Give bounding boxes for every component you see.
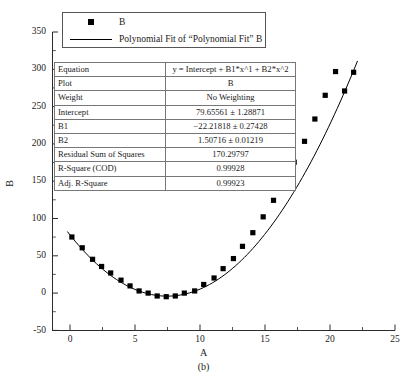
param-value-cell: B — [166, 77, 296, 91]
legend-entry-fit: Polynomial Fit of “Polynomial Fit” B — [63, 30, 265, 48]
param-name-cell: Adj. R-Square — [55, 176, 166, 190]
y-tick-label: 50 — [18, 250, 46, 260]
data-point — [333, 69, 338, 74]
param-value-cell: −22.21818 ± 0.27428 — [166, 119, 296, 133]
data-point — [261, 214, 266, 219]
data-point — [240, 244, 245, 249]
param-value-cell: 170.29797 — [166, 148, 296, 162]
data-point — [127, 283, 132, 288]
table-row: Intercept79.65561 ± 1.28871 — [55, 105, 296, 119]
x-tick-label: 15 — [251, 334, 279, 344]
table-row: WeightNo Weighting — [55, 91, 296, 105]
data-point — [231, 256, 236, 261]
param-name-cell: R-Square (COD) — [55, 162, 166, 176]
param-value-cell: No Weighting — [166, 91, 296, 105]
legend-entry-scatter: B — [63, 13, 265, 31]
line-sample-icon — [63, 39, 119, 40]
table-row: Residual Sum of Squares170.29797 — [55, 148, 296, 162]
param-name-cell: B2 — [55, 134, 166, 148]
data-point — [323, 93, 328, 98]
figure-panel: 350 300 250 200 150 100 50 0 -50 0 5 10 … — [0, 0, 407, 379]
fit-parameter-table: Equationy = Intercept + B1*x^1 + B2*x^2P… — [54, 62, 296, 191]
legend-box: B Polynomial Fit of “Polynomial Fit” B — [62, 12, 266, 48]
x-tick-label: 0 — [56, 334, 84, 344]
data-point — [108, 270, 113, 275]
data-point — [136, 288, 141, 293]
x-tick-label: 5 — [121, 334, 149, 344]
x-axis-title: A — [0, 347, 407, 358]
param-name-cell: Intercept — [55, 105, 166, 119]
y-tick-label: 200 — [18, 138, 46, 148]
param-value-cell: 0.99923 — [166, 176, 296, 190]
data-point — [201, 282, 206, 287]
table-row: PlotB — [55, 77, 296, 91]
data-point — [250, 230, 255, 235]
data-point — [351, 70, 356, 75]
param-value-cell: 0.99928 — [166, 162, 296, 176]
data-point — [221, 266, 226, 271]
x-axis-minor-ticks — [103, 327, 363, 331]
data-point — [164, 294, 169, 299]
param-name-cell: Residual Sum of Squares — [55, 148, 166, 162]
data-point — [312, 116, 317, 121]
data-point — [80, 245, 85, 250]
table-row: B1−22.21818 ± 0.27428 — [55, 119, 296, 133]
x-tick-label: 10 — [186, 334, 214, 344]
param-name-cell: Plot — [55, 77, 166, 91]
table-row: Equationy = Intercept + B1*x^1 + B2*x^2 — [55, 63, 296, 77]
data-point — [211, 275, 216, 280]
legend-entry-label: B — [119, 17, 125, 27]
y-axis-title: B — [4, 171, 15, 197]
param-value-cell: 79.65561 ± 1.28871 — [166, 105, 296, 119]
x-tick-label: 25 — [381, 334, 407, 344]
param-value-cell: 1.50716 ± 0.01219 — [166, 134, 296, 148]
param-value-cell: y = Intercept + B1*x^1 + B2*x^2 — [166, 63, 296, 77]
y-tick-label: 0 — [18, 287, 46, 297]
legend-entry-label: Polynomial Fit of “Polynomial Fit” B — [119, 34, 262, 44]
param-name-cell: Weight — [55, 91, 166, 105]
data-point — [302, 139, 307, 144]
data-point — [192, 288, 197, 293]
data-point — [155, 293, 160, 298]
data-point — [146, 291, 151, 296]
square-marker-icon — [63, 19, 119, 25]
data-point — [182, 291, 187, 296]
y-tick-label: 250 — [18, 101, 46, 111]
data-point — [69, 234, 74, 239]
table-row: Adj. R-Square0.99923 — [55, 176, 296, 190]
data-point — [90, 257, 95, 262]
data-point — [99, 264, 104, 269]
y-tick-label: 350 — [18, 26, 46, 36]
data-point — [342, 88, 347, 93]
param-name-cell: B1 — [55, 119, 166, 133]
param-name-cell: Equation — [55, 63, 166, 77]
data-point — [271, 198, 276, 203]
x-tick-label: 20 — [316, 334, 344, 344]
data-point — [118, 278, 123, 283]
y-tick-label: 150 — [18, 175, 46, 185]
y-tick-label: 300 — [18, 63, 46, 73]
data-point — [173, 293, 178, 298]
table-row: R-Square (COD)0.99928 — [55, 162, 296, 176]
y-tick-label: 100 — [18, 213, 46, 223]
figure-caption: (b) — [0, 361, 407, 372]
y-tick-label: -50 — [18, 325, 46, 335]
table-row: B21.50716 ± 0.01219 — [55, 134, 296, 148]
